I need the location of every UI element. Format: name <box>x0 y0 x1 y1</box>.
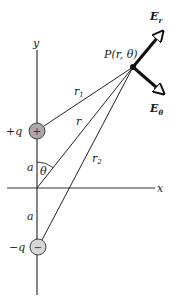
theta-label: θ <box>40 165 47 178</box>
r1-label: r1 <box>74 85 84 99</box>
point-p <box>130 64 136 70</box>
point-p-label: P(r, θ) <box>103 48 138 61</box>
a-upper-label: a <box>27 161 34 174</box>
x-axis-label: x <box>157 182 164 195</box>
dipole-diagram: + − y x P(r, θ) Er Eθ +q −q r1 r r2 a θ … <box>0 0 175 302</box>
y-axis-label: y <box>32 37 40 50</box>
e-theta-arrow <box>133 67 164 94</box>
positive-charge-label: +q <box>6 125 22 138</box>
r-label: r <box>76 115 82 128</box>
negative-sign: − <box>34 242 42 253</box>
a-lower-label: a <box>27 210 34 223</box>
r2-line <box>42 67 133 240</box>
e-r-label: Er <box>149 10 163 25</box>
r-line <box>37 67 133 188</box>
e-theta-label: Eθ <box>149 102 163 117</box>
negative-charge-label: −q <box>9 241 25 254</box>
r2-label: r2 <box>92 152 102 166</box>
r1-line <box>44 67 133 126</box>
positive-sign: + <box>33 126 41 137</box>
